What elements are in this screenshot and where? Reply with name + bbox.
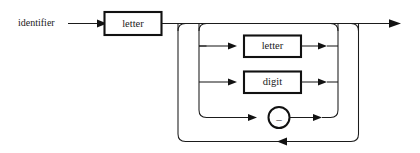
row-letter-box-label: letter <box>262 40 284 51</box>
first-letter-box: letter <box>105 12 162 35</box>
exit-arrow-head <box>389 19 401 27</box>
loop-back-rail <box>186 138 344 146</box>
row-underscore-arrow-head <box>248 114 257 121</box>
alternatives-right-spine <box>322 24 338 118</box>
row-letter-merge-arrow-head <box>318 42 327 49</box>
alternative-row-letter: letter <box>199 36 338 58</box>
alternatives-left-spine <box>199 24 216 118</box>
railroad-diagram-canvas: identifier letter <box>0 0 420 153</box>
row-digit-merge-arrow-head <box>318 78 327 85</box>
first-letter-box-label: letter <box>122 18 144 29</box>
row-letter-arrow-head <box>228 42 237 49</box>
spine-corner-caps <box>178 24 359 32</box>
entry-label: identifier <box>18 17 55 28</box>
row-digit-arrow-head <box>228 78 237 85</box>
underscore-terminal-label: _ <box>275 109 282 121</box>
entry-connector <box>68 20 107 28</box>
repeat-group-right-frame <box>344 24 359 142</box>
row-underscore-merge-arrow-head <box>313 114 322 121</box>
alternative-row-underscore: _ <box>216 107 322 128</box>
main-top-rail <box>162 19 402 27</box>
alternative-row-digit: digit <box>199 72 338 94</box>
loop-back-arrow-head <box>277 138 287 146</box>
railroad-diagram: identifier letter <box>0 0 420 153</box>
row-digit-box-label: digit <box>263 76 282 87</box>
repeat-group-left-frame <box>178 24 196 142</box>
